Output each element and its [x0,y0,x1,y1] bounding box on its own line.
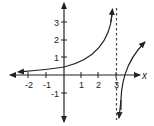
y-tick-label: 2 [54,35,59,45]
x-tick-label: 2 [96,80,101,90]
function-graph: x -2 -1 1 2 3 3 2 1 -1 [0,0,154,126]
y-tick-label: -1 [51,89,59,99]
y-tick-label: 3 [54,18,59,28]
curve-left-branch-top [111,9,113,22]
x-tick-label: 1 [79,80,84,90]
x-tick-label: -1 [43,80,51,90]
x-axis-label: x [141,70,148,81]
y-tick-label: 1 [54,53,59,63]
x-tick-label: -2 [25,80,33,90]
curve-left-branch [18,14,112,72]
